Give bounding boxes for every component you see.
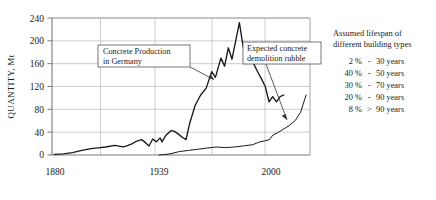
x-tick-1880: 1880 — [46, 167, 65, 177]
legend-row-2-percent: 30 % — [345, 81, 362, 90]
y-tick-240: 240 — [30, 14, 45, 24]
legend-row-0-percent: 2 % — [349, 57, 362, 66]
legend-heading-line1: Assumed lifespan of — [333, 29, 402, 38]
y-tick-160: 160 — [30, 59, 45, 69]
legend-heading-line2: different building types — [333, 40, 411, 49]
y-axis-tick-labels: 240 200 160 120 80 40 0 — [30, 14, 45, 161]
legend-row-4-percent: 8 % — [349, 105, 362, 114]
concrete-production-callout-line2: in Germany — [103, 57, 143, 66]
legend-row-0-span: 30 years — [376, 57, 404, 66]
chart-svg: 240 200 160 120 80 40 0 1880 1939 2000 Q… — [0, 0, 436, 200]
legend-row: 8 % > 90 years — [349, 105, 404, 114]
legend-row-1-separator: - — [368, 69, 371, 78]
legend-row-3-span: 90 years — [376, 93, 404, 102]
legend-row-0-separator: - — [368, 57, 371, 66]
x-tick-1939: 1939 — [150, 167, 169, 177]
legend-row: 30 % - 70 years — [345, 81, 405, 90]
y-tick-200: 200 — [30, 36, 45, 46]
y-axis-title: QUANTITY, Mt — [6, 54, 16, 118]
legend-row: 40 % - 50 years — [345, 69, 405, 78]
y-tick-120: 120 — [30, 82, 45, 92]
x-axis-tick-labels: 1880 1939 2000 — [46, 167, 281, 177]
concrete-production-callout-line1: Concrete Production — [103, 47, 171, 56]
legend-row-1-span: 50 years — [376, 69, 404, 78]
y-tick-40: 40 — [35, 128, 45, 138]
legend-row: 20 % - 90 years — [345, 93, 405, 102]
assumed-lifespan-legend: Assumed lifespan of different building t… — [333, 29, 411, 114]
demolition-rubble-callout-line2: demolition rubble — [247, 54, 306, 63]
demolition-rubble-callout-line1: Expected concrete — [247, 44, 308, 53]
y-axis-ticks — [48, 18, 53, 155]
legend-row: 2 % - 30 years — [349, 57, 404, 66]
y-tick-0: 0 — [39, 150, 44, 160]
legend-row-3-percent: 20 % — [345, 93, 362, 102]
legend-row-3-separator: - — [368, 93, 371, 102]
chart-figure: 240 200 160 120 80 40 0 1880 1939 2000 Q… — [0, 0, 436, 200]
x-tick-2000: 2000 — [262, 167, 281, 177]
legend-row-2-span: 70 years — [376, 81, 404, 90]
y-tick-80: 80 — [35, 105, 45, 115]
legend-row-1-percent: 40 % — [345, 69, 362, 78]
legend-row-4-span: 90 years — [376, 105, 404, 114]
legend-row-4-separator: > — [367, 105, 372, 114]
legend-row-2-separator: - — [368, 81, 371, 90]
